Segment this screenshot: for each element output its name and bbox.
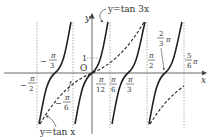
svg-text:π: π: [29, 75, 35, 83]
y-axis-label: y: [84, 13, 91, 23]
svg-text:12: 12: [96, 86, 105, 94]
label-two-thirds-pi: 2 3 π: [157, 30, 171, 70]
svg-text:π: π: [192, 58, 198, 66]
svg-text:3: 3: [159, 40, 163, 48]
label-neg-pi-2: − π 2: [20, 75, 36, 93]
label-neg-pi-3: − π 3: [40, 52, 57, 70]
svg-text:π: π: [127, 76, 133, 84]
y-tick-one: 1: [82, 54, 87, 63]
svg-text:5: 5: [187, 52, 191, 60]
svg-text:π: π: [165, 36, 171, 44]
svg-text:π: π: [64, 94, 70, 102]
label-pi-6: π 6: [110, 76, 117, 94]
svg-text:6: 6: [64, 104, 69, 112]
tan-graph: y x O 1 y=tan 3x y=tan x − π 3 − π 2 − π…: [0, 0, 211, 138]
tan3x-label: y=tan 3x: [107, 4, 149, 14]
svg-text:π: π: [50, 52, 56, 60]
svg-text:2: 2: [29, 85, 33, 93]
tanx-label: y=tan x: [39, 127, 75, 137]
svg-text:π: π: [98, 76, 104, 84]
svg-text:−: −: [55, 99, 62, 108]
svg-text:2: 2: [159, 30, 163, 38]
svg-text:π: π: [110, 76, 116, 84]
x-axis-label: x: [201, 75, 206, 85]
svg-text:3: 3: [127, 86, 131, 94]
label-neg-pi-6: − π 6: [55, 81, 71, 112]
svg-text:2: 2: [149, 62, 153, 70]
svg-text:6: 6: [111, 86, 116, 94]
svg-text:−: −: [40, 57, 47, 66]
label-pi-12: π 12: [96, 76, 106, 94]
label-five-sixths-pi: 5 6 π: [185, 52, 198, 70]
svg-text:−: −: [20, 81, 27, 90]
svg-text:3: 3: [50, 62, 54, 70]
tan3x-pointer: [100, 9, 106, 22]
svg-text:π: π: [148, 52, 154, 60]
tanx-pointer: [46, 116, 56, 127]
origin-label: O: [80, 63, 87, 73]
label-pi-3: π 3: [126, 76, 134, 94]
label-pi-2: π 2: [148, 52, 155, 70]
svg-text:6: 6: [187, 62, 192, 70]
